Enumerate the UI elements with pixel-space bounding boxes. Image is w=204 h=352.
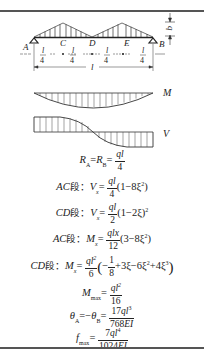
- label-c: C: [60, 38, 67, 48]
- label-a: A: [22, 42, 29, 52]
- formula-shear-ac: AC段：Vx= ql4(1−8ξ2): [0, 177, 204, 199]
- svg-text:l: l: [42, 46, 45, 55]
- formula-shear-cd: CD段：Vx= ql2(1−2ξ)2: [0, 203, 204, 225]
- formula-reactions: RA=RB= ql4: [0, 150, 204, 172]
- svg-text:l: l: [72, 46, 75, 55]
- bottom-rule: [0, 347, 204, 349]
- formula-rotation: θA=−θB= 17ql3768EI: [0, 305, 204, 329]
- distributed-load-right: [92, 23, 153, 37]
- label-e: E: [123, 38, 130, 48]
- svg-text:4: 4: [140, 56, 144, 65]
- support-a-icon: [30, 38, 38, 43]
- label-b: B: [159, 39, 165, 49]
- formula-moment-cd: CD段：Mx= ql26(−18+3ξ−6ξ2+4ξ3): [0, 255, 204, 279]
- support-b-icon: [149, 38, 157, 43]
- moment-label: M: [162, 87, 172, 98]
- formula-moment-ac: AC段：Mx= qlx12(3−8ξ2): [0, 229, 204, 251]
- svg-text:4: 4: [70, 56, 74, 65]
- svg-text:4: 4: [104, 56, 108, 65]
- label-d: D: [88, 38, 96, 48]
- svg-text:4: 4: [40, 56, 44, 65]
- formula-moment-max: Mmax= ql216: [0, 282, 204, 306]
- label-q: q: [166, 26, 176, 31]
- label-span: l: [91, 62, 94, 72]
- shear-label: V: [163, 128, 171, 139]
- shear-diagram: V: [34, 117, 171, 147]
- moment-diagram: M: [34, 87, 172, 108]
- beam-diagram: A C D E B q l ll ll 4444 M: [0, 0, 204, 160]
- svg-text:l: l: [142, 46, 145, 55]
- distributed-load-left: [34, 23, 92, 37]
- svg-text:l: l: [106, 46, 109, 55]
